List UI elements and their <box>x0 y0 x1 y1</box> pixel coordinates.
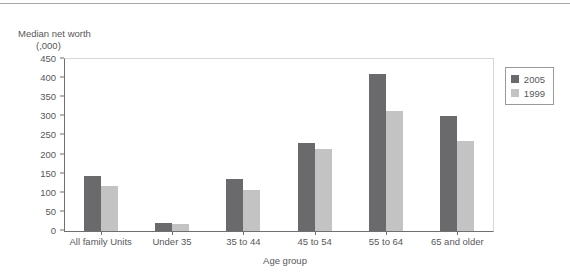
y-tick-label: 450 <box>40 53 56 64</box>
x-tick-cell <box>65 231 136 235</box>
x-tick-cell <box>279 231 350 235</box>
y-tick-label: 150 <box>40 167 56 178</box>
x-axis-ticks <box>65 231 493 235</box>
y-tick-label: 0 <box>51 225 56 236</box>
legend: 2005 1999 <box>505 67 554 105</box>
x-axis-title: Age group <box>0 255 570 266</box>
y-tick-label: 100 <box>40 186 56 197</box>
bar-2005[interactable] <box>298 143 315 231</box>
y-tick-label: 350 <box>40 91 56 102</box>
y-tick-label: 250 <box>40 129 56 140</box>
bar-1999[interactable] <box>172 224 189 231</box>
x-axis-label: All family Units <box>65 236 136 247</box>
x-tick-mark <box>172 231 173 235</box>
legend-swatch-1999 <box>511 89 519 97</box>
bar-1999[interactable] <box>101 186 118 231</box>
bar-2005[interactable] <box>155 223 172 231</box>
bar-1999[interactable] <box>243 190 260 231</box>
bar-group <box>350 59 421 231</box>
x-tick-mark <box>386 231 387 235</box>
bar-1999[interactable] <box>457 141 474 231</box>
legend-label-2005: 2005 <box>524 74 545 85</box>
x-axis-label: 45 to 54 <box>279 236 350 247</box>
legend-item-2005[interactable]: 2005 <box>511 72 545 86</box>
x-axis-label: Under 35 <box>136 236 207 247</box>
x-tick-mark <box>101 231 102 235</box>
y-axis-title-line1: Median net worth <box>18 28 91 39</box>
legend-item-1999[interactable]: 1999 <box>511 86 545 100</box>
x-axis-labels: All family UnitsUnder 3535 to 4445 to 54… <box>65 236 493 247</box>
bar-2005[interactable] <box>226 179 243 231</box>
x-axis-label: 35 to 44 <box>208 236 279 247</box>
x-tick-cell <box>350 231 421 235</box>
y-tick-label: 300 <box>40 110 56 121</box>
bar-2005[interactable] <box>84 176 101 231</box>
bar-2005[interactable] <box>440 116 457 231</box>
bar-group <box>422 59 493 231</box>
x-tick-cell <box>422 231 493 235</box>
y-tick-label: 50 <box>45 205 56 216</box>
bar-group <box>208 59 279 231</box>
y-axis-title: Median net worth (,000) <box>18 28 91 52</box>
y-tick-label: 200 <box>40 148 56 159</box>
bar-2005[interactable] <box>369 74 386 231</box>
bar-group <box>279 59 350 231</box>
bar-groups <box>65 59 493 231</box>
chart-figure: Median net worth (,000) 0501001502002503… <box>0 0 570 278</box>
y-axis-title-line2: (,000) <box>18 40 91 52</box>
bar-1999[interactable] <box>315 149 332 231</box>
y-axis-ticks: 050100150200250300350400450 <box>0 58 64 232</box>
x-axis-label: 65 and older <box>422 236 493 247</box>
x-tick-mark <box>315 231 316 235</box>
x-tick-cell <box>136 231 207 235</box>
x-tick-cell <box>208 231 279 235</box>
bar-group <box>65 59 136 231</box>
x-axis-label: 55 to 64 <box>350 236 421 247</box>
x-tick-mark <box>243 231 244 235</box>
bar-1999[interactable] <box>386 111 403 231</box>
y-tick-label: 400 <box>40 72 56 83</box>
bar-group <box>136 59 207 231</box>
legend-swatch-2005 <box>511 75 519 83</box>
legend-label-1999: 1999 <box>524 88 545 99</box>
top-divider <box>0 3 570 4</box>
x-tick-mark <box>457 231 458 235</box>
